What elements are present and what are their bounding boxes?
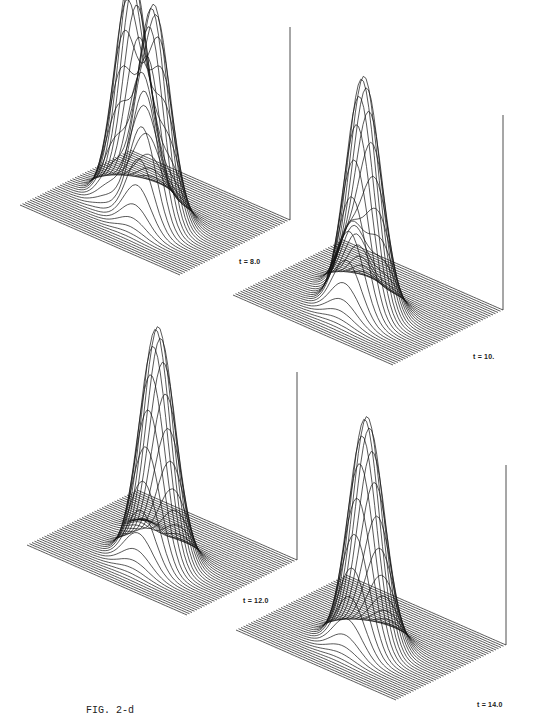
time-label-t14: t = 14.0 — [477, 701, 503, 708]
surface-plot-t14 — [0, 0, 538, 727]
time-label-t10: t = 10. — [473, 353, 494, 360]
time-label-t8: t = 8.0 — [239, 258, 260, 265]
time-label-t12: t = 12.0 — [243, 597, 269, 604]
surface-plot-svg — [0, 0, 538, 727]
figure-caption: FIG. 2-d — [86, 705, 134, 716]
